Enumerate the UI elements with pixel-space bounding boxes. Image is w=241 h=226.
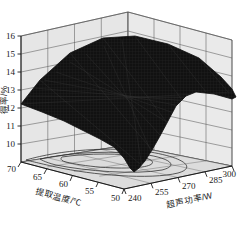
x-tick-label: 70 bbox=[7, 164, 17, 174]
z-tick-label: 14 bbox=[6, 67, 16, 77]
y-tick-label: 255 bbox=[155, 187, 169, 197]
y-tick-label: 270 bbox=[182, 181, 196, 191]
z-tick-label: 11 bbox=[6, 121, 15, 131]
x-tick-label: 55 bbox=[85, 186, 95, 196]
z-axis-title: 得率/% bbox=[0, 86, 9, 114]
z-tick-label: 10 bbox=[6, 139, 16, 149]
y-tick-label: 300 bbox=[223, 169, 237, 179]
surface-plot-figure: 16 15 14 13 12 11 10 70 65 60 55 50 240 bbox=[0, 0, 241, 226]
y-tick-label: 285 bbox=[209, 175, 223, 185]
x-tick-label: 50 bbox=[111, 193, 121, 203]
y-tick-label: 240 bbox=[128, 193, 142, 203]
plot-canvas: 16 15 14 13 12 11 10 70 65 60 55 50 240 bbox=[0, 0, 241, 226]
x-tick-label: 65 bbox=[33, 172, 43, 182]
z-tick-label: 15 bbox=[6, 49, 16, 59]
x-tick-label: 60 bbox=[59, 179, 69, 189]
z-tick-label: 16 bbox=[6, 31, 16, 41]
